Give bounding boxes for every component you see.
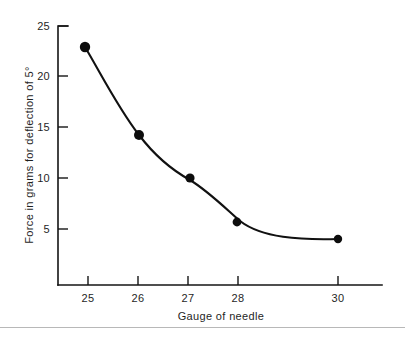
data-point-25 — [80, 42, 90, 52]
y-axis-line — [58, 26, 68, 285]
y-axis-title: Force in grams for deflection of 5° — [23, 66, 35, 243]
x-tick-label-25: 25 — [82, 292, 95, 304]
x-tick-label-30: 30 — [332, 292, 345, 304]
x-tick-label-28: 28 — [232, 292, 245, 304]
y-tick-label-15: 15 — [37, 121, 50, 133]
fitted-curve — [85, 47, 338, 239]
figure-container: 25 20 15 10 5 25 26 27 28 30 Gauge of ne… — [0, 0, 405, 342]
data-point-28 — [233, 218, 242, 227]
x-axis-title: Gauge of needle — [178, 310, 265, 322]
data-point-30 — [334, 235, 342, 243]
data-point-26 — [134, 130, 144, 140]
x-tick-label-27: 27 — [182, 292, 195, 304]
y-tick-label-25: 25 — [37, 20, 50, 32]
data-point-27 — [185, 173, 194, 182]
x-tick-label-26: 26 — [132, 292, 145, 304]
y-tick-label-5: 5 — [44, 223, 50, 235]
scatter-chart: 25 20 15 10 5 25 26 27 28 30 Gauge of ne… — [0, 0, 405, 342]
y-tick-label-20: 20 — [37, 70, 50, 82]
y-tick-label-10: 10 — [37, 172, 50, 184]
